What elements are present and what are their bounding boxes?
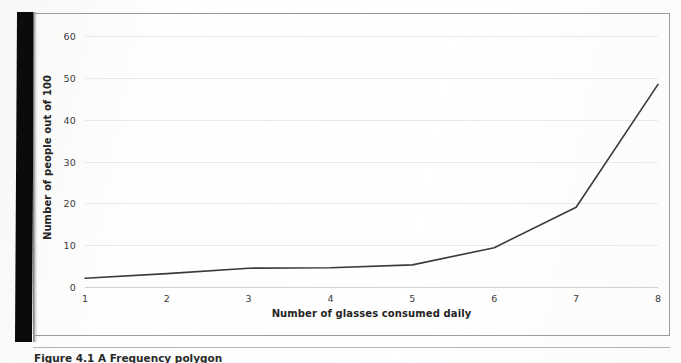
caption-divider [33,347,670,348]
y-tick-label-10: 10 [64,240,77,251]
y-axis-title-text: Number of people out of 100 [43,75,54,240]
x-tick-label-3: 3 [246,293,252,304]
figure-page: Number of people out of 100 010203040506… [0,0,681,363]
y-tick-label-40: 40 [64,114,77,125]
series-polyline [85,84,658,278]
x-tick-label-4: 4 [327,293,333,304]
x-tick-label-1: 1 [82,293,88,304]
gridline-0 [85,287,658,288]
x-tick-label-6: 6 [491,293,497,304]
y-tick-label-20: 20 [64,198,77,209]
y-tick-label-50: 50 [64,73,77,84]
book-binding-gutter [15,12,34,342]
y-tick-label-0: 0 [70,282,76,293]
x-tick-label-8: 8 [655,293,661,304]
y-tick-label-30: 30 [64,156,77,167]
x-tick-label-2: 2 [164,293,170,304]
x-tick-label-7: 7 [573,293,579,304]
y-axis-title: Number of people out of 100 [40,28,56,287]
figure-caption: Figure 4.1 A Frequency polygon [34,352,554,363]
line-series [85,28,658,287]
x-tick-label-5: 5 [409,293,415,304]
y-tick-label-60: 60 [64,31,77,42]
x-axis-title: Number of glasses consumed daily [85,308,658,319]
plot-area: 0102030405060 12345678 [85,28,658,287]
